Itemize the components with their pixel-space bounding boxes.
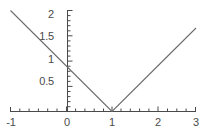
x-tick-label-1: 1 <box>105 117 119 128</box>
x-tick-label-0: 0 <box>60 117 74 128</box>
function-curve-abs-x-minus-1 <box>11 11 197 112</box>
y-tick-label-1-5: 1.5 <box>28 31 54 42</box>
x-tick-label-3: 3 <box>189 117 203 128</box>
plot-canvas <box>0 0 207 134</box>
y-tick-label-1: 1 <box>40 54 54 65</box>
y-axis-major-ticks <box>68 11 73 87</box>
x-tick-label-minus-1: -1 <box>2 117 20 128</box>
y-tick-label-2: 2 <box>40 9 54 20</box>
plot-figure: 2 1.5 1 0.5 -1 0 1 2 3 <box>0 0 207 134</box>
y-tick-label-0-5: 0.5 <box>28 76 54 87</box>
x-tick-label-2: 2 <box>151 117 165 128</box>
